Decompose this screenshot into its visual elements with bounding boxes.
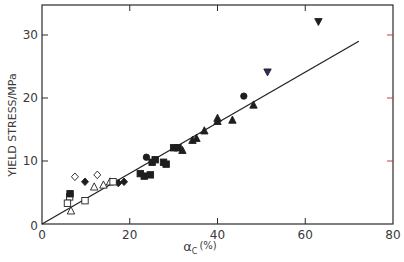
marker-diamond-filled	[81, 178, 88, 186]
x-axis-title-unit: (%)	[199, 240, 216, 251]
x-axis-title-main: α	[183, 239, 192, 254]
fit-line	[42, 41, 359, 224]
marker-triangle-open	[91, 183, 98, 190]
marker-triangle-filled	[201, 127, 208, 134]
x-tick-label: 20	[122, 228, 137, 242]
x-tick-labels: 020406080	[38, 228, 400, 242]
marker-square-open	[82, 197, 88, 203]
marker-circle-filled	[143, 154, 149, 160]
marker-diamond-open	[71, 173, 78, 181]
y-tick-label: 0	[30, 219, 38, 233]
marker-square-open	[64, 200, 70, 206]
y-tick-label: 10	[23, 154, 38, 168]
x-tick-label: 0	[38, 228, 46, 242]
marker-triangle-open	[67, 207, 74, 214]
x-tick-label: 60	[298, 228, 313, 242]
yield-stress-chart: 020406080 0102030 αC(%) YIELD STRESS/MPa	[0, 0, 404, 262]
x-tick-label: 80	[385, 228, 400, 242]
marker-triangle-filled	[229, 116, 236, 123]
marker-triangle-filled	[250, 101, 257, 108]
y-tick-label: 20	[23, 91, 38, 105]
data-markers	[64, 19, 322, 214]
marker-circle-filled	[241, 93, 247, 99]
marker-diamond-filled	[121, 178, 128, 186]
y-tick-labels: 0102030	[23, 28, 38, 233]
marker-square-filled	[141, 173, 147, 179]
marker-square-filled	[163, 161, 169, 167]
marker-square-filled	[152, 157, 158, 163]
marker-square-filled	[147, 172, 153, 178]
y-axis-title: YIELD STRESS/MPa	[6, 73, 19, 177]
marker-square-open	[110, 179, 116, 185]
marker-triangle-open	[100, 181, 107, 188]
marker-triangle-down-filled	[315, 19, 322, 26]
x-axis-title-sub: C	[192, 247, 198, 256]
marker-diamond-open	[94, 171, 101, 179]
marker-triangle-filled	[214, 114, 221, 121]
y-tick-label: 30	[23, 28, 38, 42]
marker-square-filled	[67, 191, 73, 197]
x-axis-title: αC(%)	[183, 239, 217, 256]
marker-triangle-down-filled	[264, 69, 271, 76]
